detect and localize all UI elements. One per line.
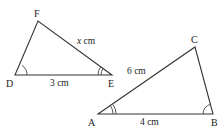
angle-a-arc-outer [113,105,116,114]
angle-a-arc-inner [111,106,113,114]
triangle-abc-outline [98,47,213,114]
side-label-ac: 6 cm [127,66,146,76]
triangle-def: F D E 3 cm x cm [6,8,114,89]
vertex-label-a: A [88,117,96,128]
angle-b-arc [203,104,210,114]
triangle-def-outline [15,21,112,75]
side-label-de: 3 cm [50,78,69,88]
vertex-label-c: C [191,34,198,45]
side-label-ab: 4 cm [140,117,159,127]
angle-d-arc [22,65,27,75]
vertex-label-f: F [34,8,40,19]
angle-e-arc-inner [101,69,103,75]
side-label-ef: x cm [76,36,96,46]
vertex-label-d: D [6,78,13,89]
vertex-label-b: B [211,117,218,128]
vertex-label-e: E [108,78,114,89]
angle-e-arc-outer [98,67,101,75]
similar-triangles-diagram: F D E 3 cm x cm C A B 6 cm 4 cm [0,0,224,133]
side-label-ef-unit: cm [81,36,96,46]
